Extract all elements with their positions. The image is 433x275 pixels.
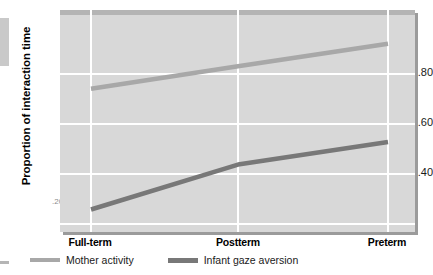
y-axis-title: Proportion of interaction time [20,6,32,206]
legend-label-mother-activity: Mother activity [66,254,134,266]
line-infant-gaze-aversion [91,142,388,209]
legend-swatch-infant-gaze-aversion [168,258,198,263]
x-axis-label-postterm: Postterm [216,236,260,248]
chart-legend: Mother activity Infant gaze aversion [30,254,298,266]
legend-item-mother-activity: Mother activity [30,254,134,266]
page-edge-mark-legend [0,261,9,264]
legend-swatch-mother-activity [30,258,60,262]
x-axis-label-preterm: Preterm [368,236,406,248]
line-chart-figure: Proportion of interaction time .80 .60 .… [0,0,433,275]
x-axis-label-full-term: Full-term [68,236,111,248]
legend-item-infant-gaze-aversion: Infant gaze aversion [168,254,299,266]
series-lines [60,10,415,232]
page-edge-mark-top [0,18,9,66]
plot-area [60,10,415,232]
line-mother-activity [91,44,388,89]
legend-label-infant-gaze-aversion: Infant gaze aversion [204,254,299,266]
